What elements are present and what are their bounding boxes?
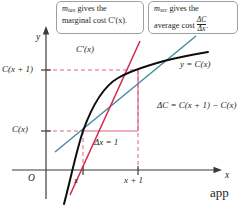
tangent-line bbox=[70, 41, 140, 195]
origin-label: O bbox=[28, 173, 35, 183]
secant-callout-line2-period: . bbox=[206, 21, 208, 30]
x-tick-label-x: x bbox=[74, 175, 78, 185]
y-tick-label-cx-plus-1: C(x + 1) bbox=[2, 64, 33, 74]
delta-c-over-delta-x-fraction: ΔCΔx bbox=[197, 16, 207, 34]
x-axis-label: x bbox=[225, 170, 229, 180]
tangent-callout-line1: mtan gives the bbox=[62, 4, 139, 16]
secant-callout: msec gives the average cost ΔCΔx. bbox=[148, 1, 238, 34]
tangent-line-label: C′(x) bbox=[76, 44, 94, 54]
page-trailing-text: app bbox=[210, 185, 229, 201]
marginal-cost-figure: mtan gives the marginal cost C′(x). msec… bbox=[0, 0, 245, 207]
x-axis-arrowhead bbox=[214, 167, 223, 173]
delta-x-label: Δx = 1 bbox=[94, 137, 118, 147]
cost-curve-label: y = C(x) bbox=[180, 59, 211, 69]
secant-callout-line1-text: gives the bbox=[167, 4, 198, 13]
guide-lines-group bbox=[46, 70, 138, 170]
tangent-callout-line1-text: gives the bbox=[75, 4, 106, 13]
y-axis-label: y bbox=[36, 32, 40, 42]
tangent-callout-line2: marginal cost C′(x). bbox=[62, 16, 139, 27]
delta-c-label: ΔC = C(x + 1) − C(x) bbox=[157, 100, 237, 110]
secant-callout-line1: msec gives the bbox=[154, 4, 233, 16]
x-tick-label-x-plus-1: x + 1 bbox=[124, 175, 143, 185]
y-axis-arrowhead bbox=[43, 26, 49, 35]
axes-group bbox=[12, 26, 222, 199]
y-tick-label-cx: C(x) bbox=[12, 124, 28, 134]
fraction-denominator: Δx bbox=[197, 24, 207, 33]
secant-callout-line2: average cost ΔCΔx. bbox=[154, 16, 233, 34]
fraction-numerator: ΔC bbox=[197, 16, 207, 24]
tick-marks-group bbox=[41, 70, 138, 175]
secant-callout-line2-text: average cost bbox=[154, 21, 197, 30]
tangent-callout: mtan gives the marginal cost C′(x). bbox=[56, 1, 144, 34]
